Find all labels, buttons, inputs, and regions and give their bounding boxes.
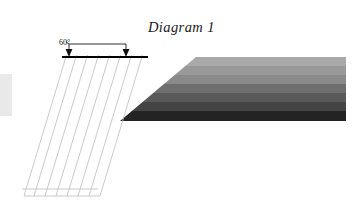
ray-line (34, 50, 78, 196)
grid-line-v (0, 29, 12, 58)
diagram-figure: 60° Diagram 1 (0, 0, 353, 218)
lower-left-ray-bundle (22, 50, 144, 196)
ray-line (45, 50, 89, 196)
ray-line (56, 50, 100, 196)
ray-line (89, 50, 133, 196)
grid-line-v (0, 49, 1, 78)
grid-line-v (0, 39, 7, 68)
figure-title: Diagram 1 (148, 19, 215, 36)
ray-line (78, 50, 122, 196)
beam-band-1 (30, 57, 346, 66)
beam-band-7 (30, 111, 346, 121)
beam-band-5 (30, 93, 346, 102)
beam-band-3 (30, 75, 346, 84)
angle-dimension-group (66, 42, 126, 50)
grid-line-v (0, 9, 24, 38)
ray-line (24, 50, 68, 196)
beam-band-2 (30, 66, 346, 75)
arrowhead-down-right-icon (123, 49, 130, 57)
left-edge-light-band (0, 74, 12, 116)
beam-band-6 (30, 102, 346, 111)
grid-line-v (0, 19, 18, 48)
ray-line (67, 50, 111, 196)
ray-line (100, 50, 144, 196)
angle-label-60-degrees: 60° (59, 38, 70, 47)
